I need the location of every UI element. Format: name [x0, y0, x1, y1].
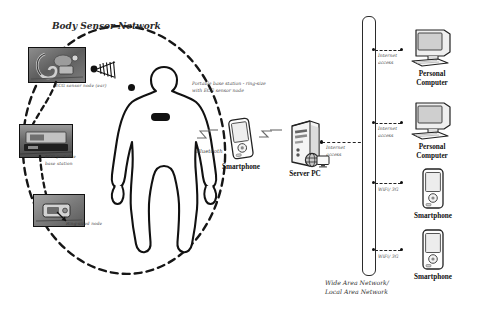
- link-label-pc2-line1: Internet: [378, 126, 397, 131]
- link-label-pc1-line1: Internet: [378, 53, 397, 58]
- device-name-sp1: Smartphone: [404, 212, 462, 220]
- device-name-server-pc: Server PC: [279, 170, 331, 178]
- link-server-to-backbone: [322, 142, 366, 143]
- link-smartphone-server: [258, 128, 288, 142]
- link-label-pc2-line2: access: [378, 133, 393, 138]
- bsn-title: Body Sensor Network: [52, 21, 161, 31]
- device-name-smartphone-center: Smartphone: [212, 163, 270, 171]
- link-backbone-sp2: [375, 250, 401, 251]
- network-backbone-bar: [362, 16, 376, 276]
- device-name-pc2-line2: Computer: [404, 152, 460, 160]
- link-dot-sp2: [400, 248, 403, 251]
- link-label-sp2: WiFi/ 3G: [378, 254, 398, 259]
- smartphone-icon: [420, 228, 446, 272]
- pointer-ring-node: [55, 210, 71, 226]
- link-label-pc1-line2: access: [378, 60, 393, 65]
- link-dot-pc2: [400, 121, 403, 124]
- link-dot-server-left: [320, 140, 323, 143]
- server-internet-label-2: access: [326, 152, 341, 157]
- desktop-computer-icon: [404, 28, 456, 70]
- server-internet-label-1: Internet: [326, 145, 345, 150]
- photo-ring-node-label: Ring-sized node: [66, 222, 102, 227]
- sensor-node-ear: [128, 84, 135, 91]
- smartphone-icon: [228, 117, 254, 161]
- bluetooth-label: Bluetooth: [196, 148, 223, 154]
- device-name-pc1-line2: Computer: [404, 79, 460, 87]
- sensor-node-chest: [151, 113, 170, 121]
- desktop-computer-icon: [404, 101, 456, 143]
- device-name-pc1-line1: Personal: [404, 70, 460, 78]
- body-note-line-1: Portable base station - ring-size: [192, 81, 266, 86]
- link-label-sp1: WiFi/ 3G: [378, 187, 398, 192]
- photo-base-station: [19, 124, 73, 158]
- smartphone-icon: [420, 167, 446, 211]
- link-backbone-sp1: [375, 183, 401, 184]
- link-backbone-pc1: [375, 50, 401, 51]
- device-name-pc2-line1: Personal: [404, 143, 460, 151]
- wan-lan-caption-line-2: Local Area Network: [325, 288, 435, 295]
- photo-ear-sensor: [28, 47, 86, 83]
- link-dot-sp1: [400, 181, 403, 184]
- diagram-canvas: Body Sensor Network ECG sensor node (ear…: [0, 0, 487, 313]
- wan-lan-caption-line-1: Wide Area Network/: [325, 279, 435, 286]
- link-backbone-pc2: [375, 123, 401, 124]
- body-note-line-2: with ECG sensor node: [192, 88, 244, 93]
- connector-photo1-photo2: [24, 80, 74, 128]
- bluetooth-link-squiggle: [196, 128, 224, 142]
- link-dot-pc1: [400, 48, 403, 51]
